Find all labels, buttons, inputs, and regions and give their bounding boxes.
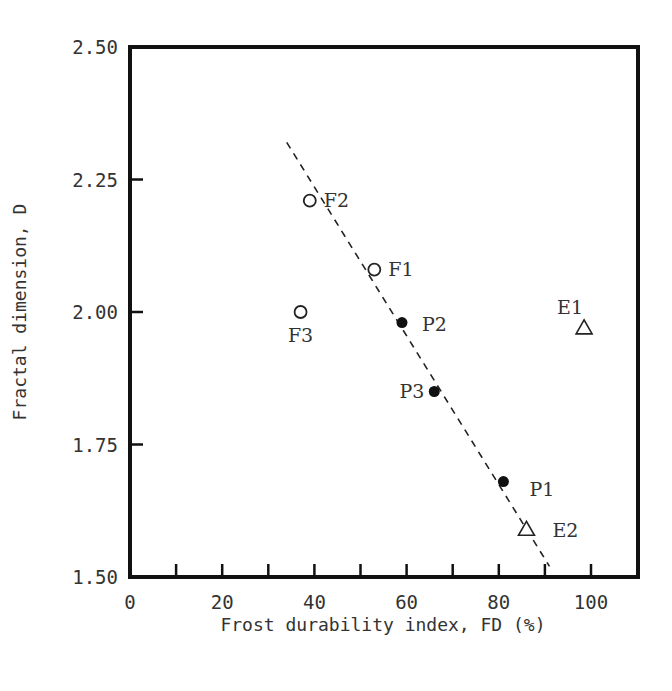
point-label-p2: P2: [422, 313, 447, 335]
marker-p3: [429, 386, 440, 397]
marker-e1: [576, 320, 592, 334]
marker-p1: [498, 476, 509, 487]
data-points: F1F2F3P1P2P3E1E2: [288, 189, 592, 542]
point-label-p3: P3: [399, 380, 424, 402]
y-axis-tick-labels: 1.501.752.002.252.50: [72, 36, 118, 588]
x-tick-label: 40: [303, 591, 326, 613]
marker-e2: [518, 521, 534, 535]
marker-p2: [396, 317, 407, 328]
x-tick-label: 0: [124, 591, 135, 613]
marker-f2: [304, 195, 316, 207]
point-label-p1: P1: [529, 478, 554, 500]
x-axis-title: Frost durability index, FD (%): [220, 614, 545, 635]
point-label-e1: E1: [557, 296, 583, 318]
point-label-f2: F2: [324, 189, 349, 211]
y-tick-label: 1.50: [72, 566, 118, 588]
point-label-f1: F1: [388, 258, 413, 280]
x-tick-label: 20: [211, 591, 234, 613]
point-label-f3: F3: [288, 324, 313, 346]
x-tick-label: 80: [487, 591, 510, 613]
scatter-chart: 020406080100 1.501.752.002.252.50 F1F2F3…: [0, 0, 672, 691]
marker-f3: [295, 306, 307, 318]
y-tick-label: 2.50: [72, 36, 118, 58]
y-tick-label: 2.25: [72, 169, 118, 191]
marker-f1: [368, 264, 380, 276]
x-axis-tick-labels: 020406080100: [124, 591, 608, 613]
y-tick-label: 1.75: [72, 434, 118, 456]
y-axis-title: Fractal dimension, D: [9, 204, 30, 421]
y-tick-label: 2.00: [72, 301, 118, 323]
x-tick-label: 60: [395, 591, 418, 613]
x-tick-label: 100: [574, 591, 608, 613]
point-label-e2: E2: [552, 519, 578, 541]
